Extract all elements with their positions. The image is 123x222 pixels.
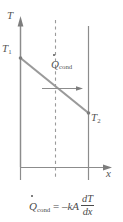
- equation-overdot-icon: [31, 195, 33, 197]
- equation-derivative-fraction: dTdx: [81, 194, 94, 217]
- q-symbol: Q: [51, 58, 59, 70]
- equation-minus-k: –k: [62, 200, 72, 212]
- heat-flux-arrowhead: [76, 86, 83, 91]
- equation-q-dot-symbol: Q: [29, 200, 37, 212]
- equation-area-symbol: A: [72, 200, 79, 212]
- x-axis-label: x: [106, 168, 111, 179]
- t2-subscript: 2: [97, 117, 100, 124]
- fraction-denominator: dx: [81, 207, 94, 218]
- t-axis-arrowhead: [18, 16, 24, 27]
- equation-equals-sign: =: [53, 200, 59, 212]
- equation-q-symbol: Q: [29, 200, 37, 212]
- fraction-numerator: dT: [81, 194, 94, 205]
- y-axis-label: T: [7, 10, 13, 21]
- overdot-icon: [53, 54, 55, 56]
- equation-q-subscript: cond: [37, 206, 50, 213]
- t2-label: T2: [91, 112, 101, 125]
- heat-conduction-figure: T x T1 T2 Qcond Qcond = –kAdTdx: [0, 0, 123, 222]
- conduction-equation: Qcond = –kAdTdx: [0, 194, 123, 217]
- t2-point-marker: [87, 111, 91, 115]
- t1-subscript: 1: [8, 48, 11, 55]
- heat-flux-label: Qcond: [51, 59, 72, 71]
- q-dot-symbol: Q: [51, 59, 59, 70]
- t1-point-marker: [19, 56, 23, 60]
- t1-label: T1: [2, 43, 12, 56]
- q-subscript: cond: [59, 63, 72, 70]
- diagram-canvas: [0, 0, 123, 222]
